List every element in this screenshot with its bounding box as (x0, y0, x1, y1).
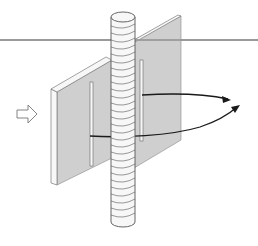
left-plate (51, 57, 112, 185)
right-plate (134, 15, 181, 168)
diagram-canvas (0, 0, 258, 246)
rod-and-plate-diagram (0, 0, 258, 246)
hollow-right-arrow (17, 105, 37, 123)
right-slot (140, 60, 143, 141)
left-slot (90, 82, 93, 166)
threaded-rod (111, 12, 135, 227)
